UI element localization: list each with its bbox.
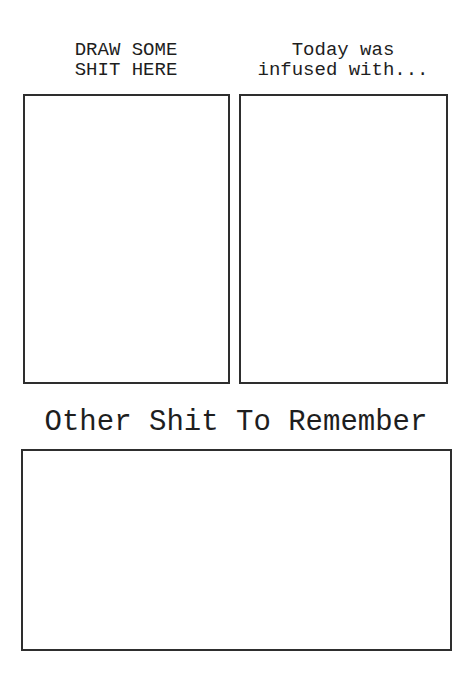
notes-title: Other Shit To Remember — [0, 406, 472, 439]
draw-panel-title: DRAW SOME SHIT HERE — [23, 40, 229, 80]
draw-panel-title-line2: SHIT HERE — [23, 60, 229, 80]
draw-panel-box[interactable] — [23, 94, 230, 384]
draw-panel-title-line1: DRAW SOME — [23, 40, 229, 60]
infused-panel-title-line2: infused with... — [239, 60, 447, 80]
infused-panel-title-line1: Today was — [239, 40, 447, 60]
notes-box[interactable] — [21, 449, 452, 651]
infused-panel-title: Today was infused with... — [239, 40, 447, 80]
infused-panel-box[interactable] — [239, 94, 448, 384]
